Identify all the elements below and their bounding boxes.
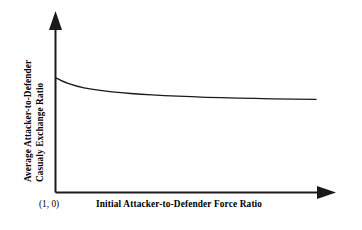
x-axis-label: Initial Attacker-to-Defender Force Ratio bbox=[96, 199, 262, 209]
x-axis-arrowhead-icon bbox=[317, 186, 336, 199]
chart-plot-area bbox=[0, 0, 362, 230]
figure-container: Average Attacker-to-Defender Casualy Exc… bbox=[0, 0, 362, 230]
data-series-line bbox=[57, 78, 317, 99]
y-axis-arrowhead-icon bbox=[49, 11, 62, 30]
origin-coordinate-label: (1, 0) bbox=[39, 199, 59, 209]
